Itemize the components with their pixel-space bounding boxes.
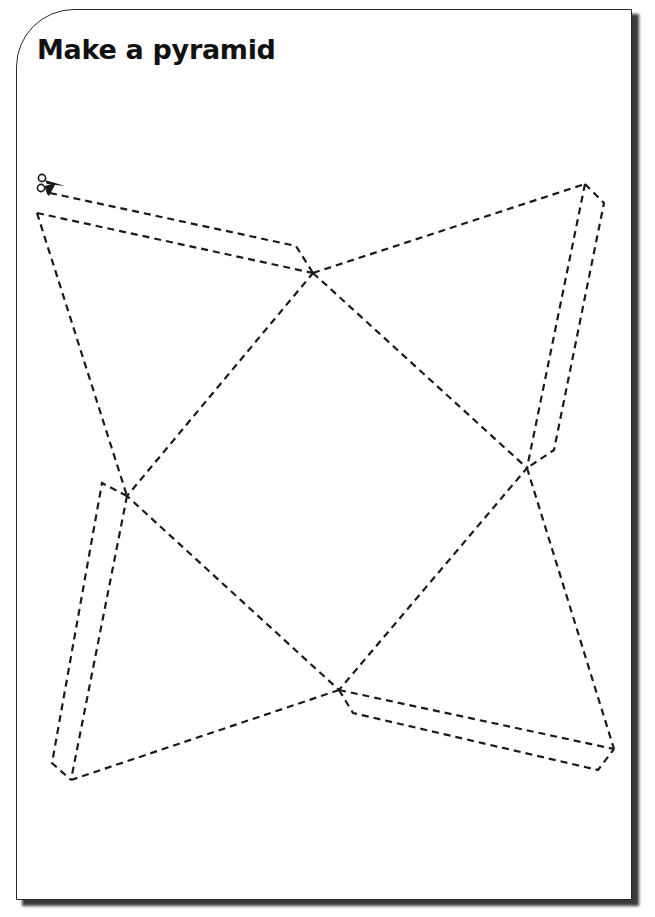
face-top-right-edge-a: [313, 184, 585, 273]
face-bottom-left-edge-b: [71, 496, 127, 780]
face-top-left-edge-b: [37, 213, 313, 273]
face-bottom-left-edge-a: [71, 690, 339, 780]
scissors-icon: [34, 172, 68, 200]
face-top-right-edge-b: [527, 184, 585, 468]
square-base-outline: [127, 273, 527, 690]
glue-tab-bottom-left: [52, 483, 127, 780]
pyramid-net: [0, 0, 655, 917]
face-bottom-right-edge-a: [527, 468, 614, 749]
face-top-left-edge-a: [37, 213, 127, 496]
glue-tab-top-left: [50, 193, 313, 273]
glue-tab-top-right: [527, 184, 604, 468]
glue-tab-bottom-right: [339, 690, 614, 770]
